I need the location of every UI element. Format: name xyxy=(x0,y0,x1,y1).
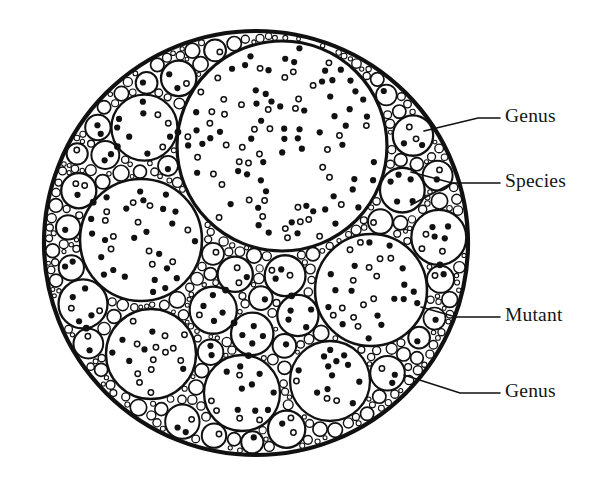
species-circle xyxy=(106,309,196,399)
species-circle xyxy=(268,309,277,318)
mutant-filled-dot xyxy=(251,434,257,440)
mutant-filled-dot xyxy=(164,265,170,271)
species-circle xyxy=(282,388,289,395)
mutant-filled-dot xyxy=(194,170,200,176)
mutant-hollow-dot xyxy=(69,305,74,310)
species-circle xyxy=(356,421,361,426)
species-circle xyxy=(457,288,461,292)
mutant-hollow-dot xyxy=(291,430,296,435)
species-circle xyxy=(408,216,415,223)
mutant-hollow-dot xyxy=(326,60,331,65)
species-circle xyxy=(302,260,307,265)
species-circle xyxy=(87,363,94,370)
species-circle xyxy=(176,52,184,60)
mutant-hollow-dot xyxy=(294,378,299,383)
species-circle xyxy=(107,172,111,176)
species-circle xyxy=(264,437,268,441)
species-circle xyxy=(51,231,56,236)
mutant-hollow-dot xyxy=(130,318,135,323)
mutant-filled-dot xyxy=(295,135,301,141)
species-circle xyxy=(241,431,263,453)
mutant-hollow-dot xyxy=(298,219,303,224)
species-circle xyxy=(202,283,206,287)
species-circle xyxy=(65,325,73,333)
mutant-filled-dot xyxy=(265,67,271,73)
mutant-filled-dot xyxy=(411,289,417,295)
mutant-hollow-dot xyxy=(371,220,376,225)
mutant-filled-dot xyxy=(296,45,302,51)
species-circle xyxy=(67,143,88,164)
mutant-hollow-dot xyxy=(150,261,155,266)
species-circle xyxy=(393,216,407,230)
species-circle xyxy=(93,359,98,364)
mutant-filled-dot xyxy=(278,266,284,272)
mutant-filled-dot xyxy=(308,306,314,312)
species-circle xyxy=(227,37,241,51)
species-circle xyxy=(147,411,156,420)
mutant-filled-dot xyxy=(419,142,425,148)
mutant-filled-dot xyxy=(347,78,353,84)
mutant-hollow-dot xyxy=(287,272,292,277)
species-circle xyxy=(397,339,405,347)
mutant-filled-dot xyxy=(156,251,162,257)
species-circle xyxy=(205,222,210,227)
mutant-hollow-dot xyxy=(440,248,445,253)
mutant-filled-dot xyxy=(208,352,214,358)
species-circle xyxy=(148,161,153,166)
mutant-filled-dot xyxy=(283,341,289,347)
species-circle xyxy=(97,101,110,114)
mutant-hollow-dot xyxy=(331,312,336,317)
mutant-hollow-dot xyxy=(111,234,116,239)
species-circle xyxy=(71,165,79,173)
species-circle xyxy=(408,327,430,349)
figure-root: GenusSpeciesMutantGenus xyxy=(0,0,601,496)
species-circle xyxy=(368,353,375,360)
species-circle xyxy=(320,248,325,253)
species-circle xyxy=(199,40,205,46)
species-circle xyxy=(171,51,176,56)
species-circle xyxy=(67,164,71,168)
species-circle xyxy=(122,156,129,163)
species-circle xyxy=(433,140,437,144)
species-circle xyxy=(49,199,63,213)
species-circle xyxy=(373,390,386,403)
species-circle xyxy=(429,340,438,349)
species-circle xyxy=(287,395,291,399)
mutant-hollow-dot xyxy=(295,205,300,210)
circle-packing-layer xyxy=(44,31,468,455)
mutant-hollow-dot xyxy=(216,215,221,220)
mutant-hollow-dot xyxy=(166,121,171,126)
mutant-filled-dot xyxy=(277,103,283,109)
species-circle xyxy=(422,362,427,367)
species-circle xyxy=(46,244,60,258)
species-circle xyxy=(167,178,172,183)
mutant-filled-dot xyxy=(347,106,353,112)
species-circle xyxy=(52,259,59,266)
species-circle xyxy=(106,381,115,390)
mutant-filled-dot xyxy=(291,59,297,65)
mutant-hollow-dot xyxy=(246,160,251,165)
species-circle xyxy=(191,375,195,379)
species-circle xyxy=(153,419,161,427)
species-circle xyxy=(442,307,446,311)
mutant-filled-dot xyxy=(253,100,259,106)
species-circle xyxy=(431,330,435,334)
species-circle xyxy=(52,294,56,298)
mutant-hollow-dot xyxy=(377,256,382,261)
species-circle xyxy=(384,111,392,119)
species-circle xyxy=(352,59,361,68)
mutant-filled-dot xyxy=(345,362,351,368)
mutant-filled-dot xyxy=(248,136,254,142)
mutant-filled-dot xyxy=(193,127,199,133)
mutant-filled-dot xyxy=(88,312,94,318)
species-circle xyxy=(408,226,412,230)
mutant-filled-dot xyxy=(140,197,146,203)
species-circle xyxy=(442,292,458,308)
mutant-hollow-dot xyxy=(246,197,251,202)
mutant-filled-dot xyxy=(266,229,272,235)
mutant-hollow-dot xyxy=(325,147,330,152)
species-circle xyxy=(370,356,405,391)
mutant-filled-dot xyxy=(341,352,347,358)
mutant-filled-dot xyxy=(441,271,447,277)
mutant-hollow-dot xyxy=(371,296,376,301)
